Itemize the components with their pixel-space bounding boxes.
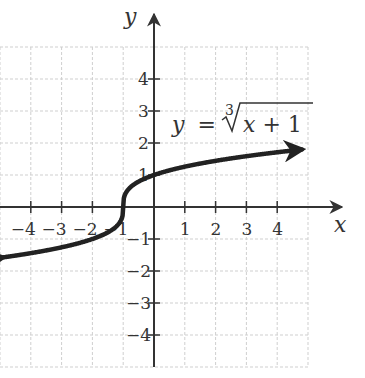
x-tick-label: −4 xyxy=(11,219,36,239)
x-tick-label: 2 xyxy=(211,219,222,239)
x-tick-label: 1 xyxy=(180,219,191,239)
equation-equals: = xyxy=(197,112,215,137)
cube-root-graph: −4−3−2−11234 4321−1−2−3−4 x y y = 3 x + … xyxy=(0,0,365,378)
x-axis-label: x xyxy=(334,212,347,237)
y-tick-label: 3 xyxy=(138,101,149,121)
equation-lhs: y xyxy=(171,112,185,137)
radicand-rest: + 1 xyxy=(262,112,301,137)
svg-text:y =: y = xyxy=(171,112,216,137)
y-tick-label: −2 xyxy=(126,261,151,281)
y-tick-label: −1 xyxy=(126,229,151,249)
x-tick-label: 3 xyxy=(241,219,252,239)
function-curve xyxy=(3,150,302,258)
svg-text:x + 1: x + 1 xyxy=(243,112,302,137)
equation-label: y = 3 x + 1 xyxy=(171,102,313,137)
root-index: 3 xyxy=(225,102,234,118)
y-tick-label: −4 xyxy=(126,325,151,345)
y-tick-label: 4 xyxy=(138,69,149,89)
radicand-variable: x xyxy=(243,112,256,137)
x-tick-label: −3 xyxy=(42,219,67,239)
y-tick-label: 2 xyxy=(138,133,149,153)
y-tick-label: −3 xyxy=(126,293,151,313)
y-axis-label: y xyxy=(123,4,137,29)
x-tick-label: −2 xyxy=(72,219,97,239)
x-tick-label: 4 xyxy=(272,219,283,239)
